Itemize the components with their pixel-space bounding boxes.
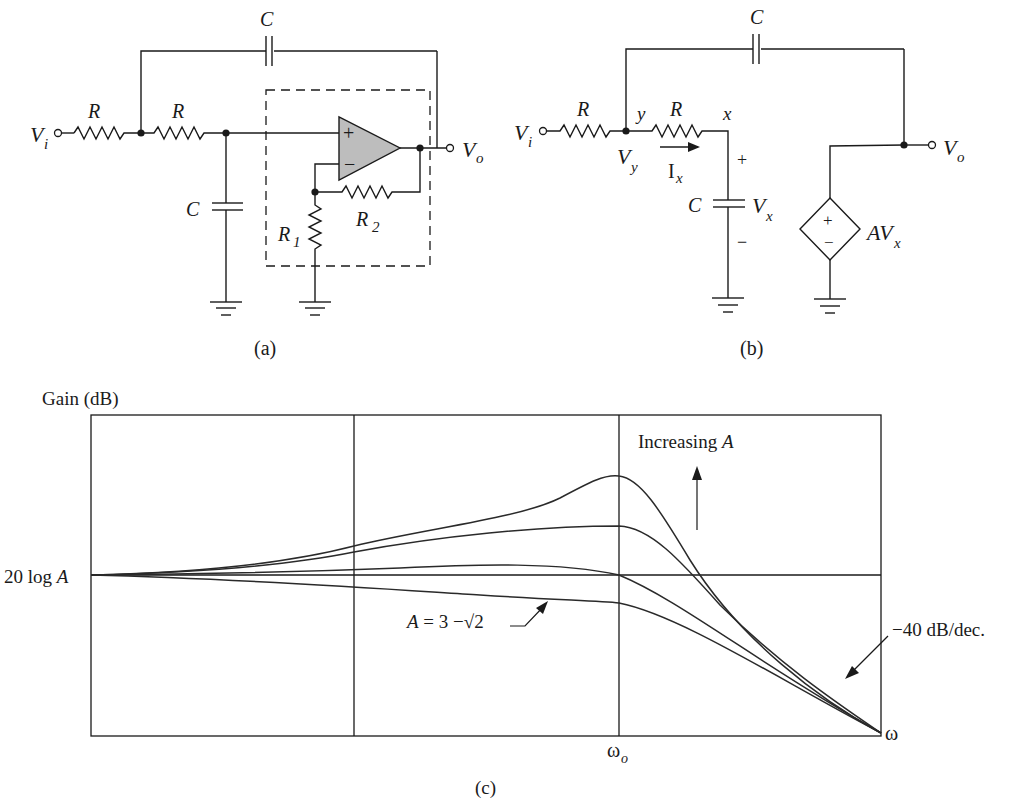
- ix-sub: x: [675, 170, 683, 186]
- node-y-label: y: [635, 103, 646, 124]
- resistor-mid-icon: [626, 125, 728, 200]
- r2-label: R: [355, 208, 368, 230]
- vi-sub: i: [44, 136, 48, 152]
- amplifier-box: [266, 90, 430, 266]
- current-arrow-icon: [660, 142, 700, 152]
- r-mid-label: R: [669, 98, 682, 120]
- vi-sub: i: [528, 134, 532, 150]
- c-top-label: C: [750, 6, 764, 28]
- y-axis-label: Gain (dB): [42, 388, 119, 410]
- r1-label: R: [277, 223, 290, 245]
- y-tick-20logA: 20 log A: [4, 566, 69, 587]
- vx-plus: +: [737, 150, 747, 170]
- vi-terminal-icon: [55, 130, 62, 137]
- r-mid-label: R: [171, 100, 184, 122]
- x-tick-omega0-sub: o: [621, 751, 628, 766]
- resistor-r1-icon: [309, 192, 321, 302]
- resistor-left-icon: [547, 125, 626, 137]
- annotation-slope: −40 dB/dec.: [892, 619, 985, 640]
- resistor-left-icon: [74, 127, 141, 139]
- avx-label: AV: [865, 220, 895, 245]
- caption-c: (c): [475, 777, 496, 799]
- c-shunt-label: C: [688, 194, 702, 216]
- arrow-pointer-icon: [510, 601, 548, 626]
- curve-a-highest: [91, 476, 881, 733]
- vo-terminal-icon: [929, 142, 936, 149]
- r1-sub: 1: [293, 234, 301, 250]
- op-amp-plus: +: [343, 122, 354, 144]
- arrow-up-icon: [692, 466, 702, 530]
- op-amp-minus: −: [344, 153, 355, 175]
- src-plus: +: [823, 211, 833, 230]
- caption-a: (a): [254, 337, 276, 360]
- node-x-label: x: [722, 103, 732, 124]
- c-top-label: C: [260, 8, 274, 30]
- circuit-b: V i R y V y C R x I x + C V x −: [514, 6, 965, 360]
- caption-b: (b): [740, 337, 763, 360]
- ix-label: I: [668, 160, 675, 182]
- curve-a-3-minus-sqrt2: [91, 575, 881, 733]
- x-axis-label: ω: [885, 722, 898, 744]
- annotation-min-a: A = 3 −√2: [405, 611, 484, 632]
- vy-sub: y: [629, 159, 638, 175]
- ground-icon: [712, 298, 744, 312]
- r-left-label: R: [576, 98, 589, 120]
- r-left-label: R: [87, 100, 100, 122]
- ground-icon: [814, 299, 846, 313]
- src-minus: −: [824, 233, 834, 252]
- x-tick-omega0: ω: [607, 739, 620, 761]
- r2-sub: 2: [372, 219, 380, 235]
- figure-canvas: V i R C R C: [0, 0, 1009, 810]
- annotation-increasing-a: Increasing A: [638, 431, 734, 452]
- c-shunt-label: C: [186, 198, 200, 220]
- vi-terminal-icon: [540, 128, 547, 135]
- curve-a-medium: [91, 526, 881, 733]
- bode-plot: Gain (dB) 20 log A Increasing A A = 3 −√…: [4, 388, 985, 799]
- curve-a-low: [91, 565, 881, 733]
- vo-sub: o: [957, 149, 965, 165]
- vo-terminal-icon: [447, 145, 454, 152]
- ground-icon: [210, 302, 242, 315]
- avx-sub: x: [893, 235, 901, 251]
- circuit-a: V i R C R C: [30, 8, 484, 360]
- vo-sub: o: [476, 150, 484, 166]
- vx-sub: x: [765, 208, 773, 224]
- vx-minus: −: [737, 232, 747, 252]
- resistor-mid-icon: [141, 127, 226, 139]
- ground-icon: [299, 302, 331, 315]
